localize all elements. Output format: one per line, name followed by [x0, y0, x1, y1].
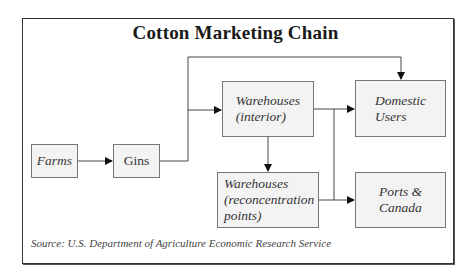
node-warehouses-reconcentration-label: Warehouses (reconcentration points)	[224, 176, 314, 224]
node-domestic-users-label: Domestic Users	[375, 93, 426, 125]
node-ports-canada: Ports & Canada	[355, 172, 446, 228]
node-warehouses-reconcentration: Warehouses (reconcentration points)	[217, 172, 319, 228]
node-ports-canada-label: Ports & Canada	[379, 184, 422, 216]
node-domestic-users: Domestic Users	[355, 80, 446, 137]
node-gins-label: Gins	[124, 153, 150, 169]
node-gins: Gins	[113, 144, 160, 178]
node-warehouses-interior-label: Warehouses (interior)	[236, 93, 300, 125]
node-warehouses-interior: Warehouses (interior)	[222, 81, 314, 137]
node-farms-label: Farms	[37, 153, 72, 169]
node-farms: Farms	[31, 144, 78, 178]
source-note: Source: U.S. Department of Agriculture E…	[31, 237, 331, 249]
